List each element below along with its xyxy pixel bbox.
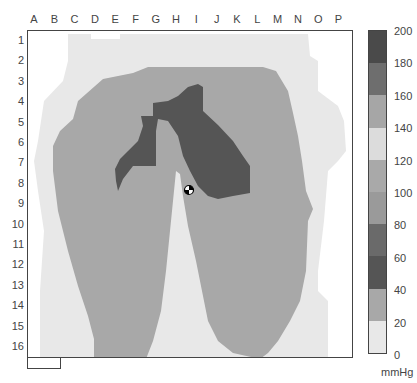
column-label: G	[149, 13, 163, 25]
scale-box	[27, 357, 61, 369]
column-label: A	[27, 13, 41, 25]
column-label: E	[108, 13, 122, 25]
column-label: K	[230, 13, 244, 25]
row-label: 16	[4, 340, 24, 352]
colorbar-unit: mmHg	[381, 366, 413, 378]
row-label: 8	[4, 177, 24, 189]
colorbar	[368, 30, 387, 354]
pressure-map-graphic	[28, 31, 353, 358]
pressure-map	[27, 30, 353, 358]
row-label: 4	[4, 95, 24, 107]
colorbar-tick-label: 80	[394, 219, 406, 231]
colorbar-band	[369, 63, 386, 95]
column-label: H	[169, 13, 183, 25]
row-label: 7	[4, 156, 24, 168]
column-label: J	[210, 13, 224, 25]
colorbar-band	[369, 95, 386, 127]
colorbar-tick-label: 100	[394, 187, 412, 199]
colorbar-tick-label: 0	[394, 349, 400, 361]
colorbar-tick-label: 120	[394, 155, 412, 167]
row-label: 14	[4, 299, 24, 311]
column-label: N	[291, 13, 305, 25]
colorbar-band	[369, 224, 386, 256]
column-label: P	[332, 13, 346, 25]
colorbar-band	[369, 289, 386, 321]
colorbar-tick-label: 140	[394, 122, 412, 134]
column-label: I	[189, 13, 203, 25]
column-label: D	[88, 13, 102, 25]
colorbar-tick-label: 200	[394, 25, 412, 37]
colorbar-band	[369, 256, 386, 288]
column-label: L	[250, 13, 264, 25]
row-label: 3	[4, 75, 24, 87]
row-label: 6	[4, 136, 24, 148]
column-label: C	[68, 13, 82, 25]
row-label: 5	[4, 116, 24, 128]
colorbar-band	[369, 192, 386, 224]
colorbar-tick-label: 40	[394, 284, 406, 296]
row-label: 1	[4, 34, 24, 46]
column-label: O	[311, 13, 325, 25]
column-label: B	[47, 13, 61, 25]
row-label: 13	[4, 279, 24, 291]
column-label: M	[271, 13, 285, 25]
column-label: F	[129, 13, 143, 25]
colorbar-band	[369, 128, 386, 160]
colorbar-band	[369, 160, 386, 192]
colorbar-tick-label: 180	[394, 57, 412, 69]
row-label: 2	[4, 54, 24, 66]
row-label: 12	[4, 258, 24, 270]
colorbar-band	[369, 31, 386, 63]
center-of-pressure-icon	[185, 186, 194, 195]
row-label: 10	[4, 218, 24, 230]
colorbar-band	[369, 321, 386, 353]
row-label: 9	[4, 197, 24, 209]
row-label: 15	[4, 320, 24, 332]
row-label: 11	[4, 238, 24, 250]
colorbar-tick-label: 160	[394, 90, 412, 102]
colorbar-tick-label: 20	[394, 317, 406, 329]
colorbar-tick-label: 60	[394, 252, 406, 264]
